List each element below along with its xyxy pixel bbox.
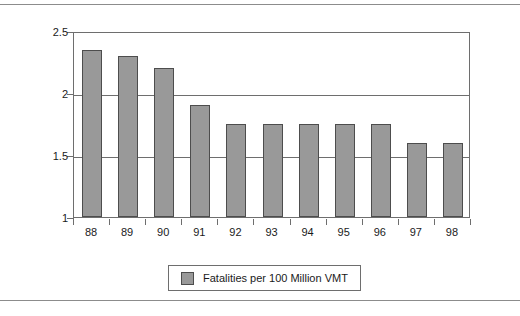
x-axis-label: 91	[181, 227, 217, 238]
y-axis-label: 1.5	[53, 151, 68, 162]
x-tick-mark	[181, 219, 182, 225]
x-tick-mark	[434, 219, 435, 225]
x-axis-label: 94	[290, 227, 326, 238]
x-tick-mark	[145, 219, 146, 225]
legend-swatch-icon	[181, 272, 194, 285]
bar	[190, 105, 210, 217]
x-axis-label: 88	[73, 227, 109, 238]
bar	[443, 143, 463, 217]
x-axis-label: 98	[434, 227, 470, 238]
chart-legend: Fatalities per 100 Million VMT	[168, 265, 361, 291]
bar	[118, 56, 138, 217]
x-tick-mark	[217, 219, 218, 225]
bottom-divider-rule	[0, 300, 520, 301]
x-tick-mark	[109, 219, 110, 225]
legend-label: Fatalities per 100 Million VMT	[203, 273, 348, 284]
y-axis-label: 2	[62, 89, 68, 100]
x-axis-label: 95	[326, 227, 362, 238]
x-axis-label: 97	[398, 227, 434, 238]
x-axis-label: 92	[217, 227, 253, 238]
y-axis-label: 2.5	[53, 27, 68, 38]
x-tick-mark	[470, 219, 471, 225]
bar	[154, 68, 174, 217]
bar	[407, 143, 427, 217]
x-axis-label: 93	[254, 227, 290, 238]
x-tick-mark	[326, 219, 327, 225]
x-tick-mark	[73, 219, 74, 225]
y-axis-label: 1	[62, 213, 68, 224]
bar	[299, 124, 319, 217]
bar	[335, 124, 355, 217]
bar	[371, 124, 391, 217]
x-axis-label: 89	[109, 227, 145, 238]
x-tick-mark	[362, 219, 363, 225]
chart-figure: 2.521.51 8889909192939495969798 Fataliti…	[0, 0, 520, 316]
top-divider-rule	[0, 4, 520, 5]
x-axis-label: 96	[362, 227, 398, 238]
x-tick-mark	[253, 219, 254, 225]
x-tick-mark	[290, 219, 291, 225]
bar	[226, 124, 246, 217]
x-axis-label: 90	[145, 227, 181, 238]
plot-area	[73, 32, 470, 218]
x-tick-mark	[398, 219, 399, 225]
bar	[263, 124, 283, 217]
bar	[82, 50, 102, 217]
